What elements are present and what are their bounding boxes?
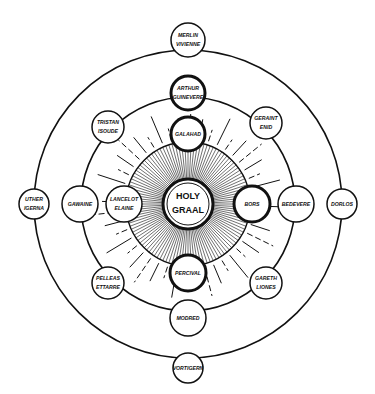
node-circle xyxy=(250,107,282,139)
node-label: GALAHAD xyxy=(175,131,201,137)
center-label-line2: GRAAL xyxy=(172,205,204,215)
node-circle xyxy=(250,267,282,299)
ray xyxy=(144,222,169,247)
node-arthur: ARTHURGUINEVERE xyxy=(171,76,205,110)
ray xyxy=(117,155,133,166)
node-label-bottom: ENID xyxy=(260,124,273,130)
node-label-bottom: GUINEVERE xyxy=(173,94,204,100)
node-label: VORTIGERN xyxy=(173,365,204,371)
ray xyxy=(150,263,159,281)
ray xyxy=(242,241,258,252)
node-label-top: TRISTAN xyxy=(97,119,119,125)
node-label: BEDEVERE xyxy=(282,201,311,207)
ray xyxy=(251,224,270,230)
node-merlin: MERLINVIVIENNE xyxy=(171,23,205,57)
node-galahad: GALAHAD xyxy=(171,117,205,151)
holy-graal-node: HOLY GRAAL xyxy=(163,179,213,229)
node-label-top: GERAINT xyxy=(254,115,278,121)
node-bors: BORS xyxy=(234,186,270,222)
node-circle xyxy=(19,189,49,219)
ray xyxy=(230,255,248,277)
node-circle xyxy=(92,111,124,143)
node-label-top: ARTHUR xyxy=(176,85,199,91)
node-label-top: LANCELOT xyxy=(110,196,139,202)
node-label-bottom: ISOUDE xyxy=(98,128,118,134)
node-percival: PERCIVAL xyxy=(170,255,206,291)
node-gawaine: GAWAINE xyxy=(62,186,98,222)
node-pelleas: PELLEASETTARRE xyxy=(92,267,124,299)
holy-grail-diagram: MERLINVIVIENNEARTHURGUINEVEREGALAHADTRIS… xyxy=(0,0,375,394)
node-label-top: UTHER xyxy=(25,196,43,202)
ray xyxy=(116,230,127,235)
ray xyxy=(134,137,147,153)
node-vortigern: VORTIGERN xyxy=(173,353,204,383)
ray xyxy=(118,140,139,160)
ray xyxy=(206,222,231,247)
node-label-bottom: IGERNA xyxy=(24,205,44,211)
node-label-bottom: LIONES xyxy=(256,284,276,290)
ray xyxy=(225,140,232,150)
ray xyxy=(239,144,261,162)
node-label: GAWAINE xyxy=(68,201,93,207)
ray xyxy=(233,141,247,156)
node-label: MODRED xyxy=(176,315,199,321)
node-label-top: GARETH xyxy=(255,275,277,281)
ray xyxy=(237,249,246,257)
ray xyxy=(107,238,132,253)
node-label-bottom: ELAINE xyxy=(114,205,134,211)
ray xyxy=(247,233,273,246)
node-uther: UTHERIGERNA xyxy=(19,189,49,219)
ray xyxy=(217,119,230,145)
node-label-bottom: ETTARRE xyxy=(96,284,121,290)
ray xyxy=(214,265,222,283)
ray xyxy=(134,258,150,282)
node-lancelot: LANCELOTELAINE xyxy=(106,186,142,222)
node-label-bottom: VIVIENNE xyxy=(176,41,201,47)
ray xyxy=(130,253,144,268)
node-circle xyxy=(171,76,205,110)
ray xyxy=(245,160,262,170)
ray xyxy=(118,169,129,174)
node-label: PERCIVAL xyxy=(175,270,201,276)
node-gareth: GARETHLIONES xyxy=(250,267,282,299)
node-circle xyxy=(106,186,142,222)
ray xyxy=(164,267,168,278)
node-modred: MODRED xyxy=(170,300,206,336)
ray xyxy=(151,116,162,143)
ray xyxy=(144,160,169,185)
node-circle xyxy=(92,267,124,299)
node-label: BORS xyxy=(245,201,261,207)
node-label-top: PELLEAS xyxy=(96,275,120,281)
node-dorlos: DORLOS xyxy=(327,189,357,219)
node-tristan: TRISTANISOUDE xyxy=(92,111,124,143)
node-label-top: MERLIN xyxy=(178,32,198,38)
node-circle xyxy=(171,23,205,57)
ray xyxy=(222,261,228,271)
node-label: DORLOS xyxy=(331,201,354,207)
node-bedevere: BEDEVERE xyxy=(278,186,314,222)
ray xyxy=(128,246,137,254)
center-label-line1: HOLY xyxy=(176,191,200,201)
ray xyxy=(206,160,231,185)
ray xyxy=(148,137,154,147)
ray xyxy=(98,175,126,184)
node-geraint: GERAINTENID xyxy=(250,107,282,139)
ray xyxy=(249,174,260,179)
ray xyxy=(208,130,212,141)
